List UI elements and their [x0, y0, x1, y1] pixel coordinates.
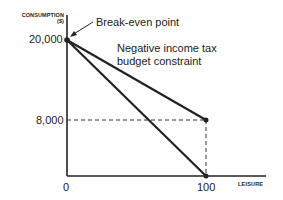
nit-annotation-line2: budget constraint [117, 55, 217, 68]
nit-endpoint-dot [204, 118, 209, 123]
y-axis-label: CONSUMPTION ($) [18, 12, 64, 24]
y-axis-label-line2: ($) [18, 18, 64, 24]
x-tick-0: 0 [63, 181, 69, 193]
nit-annotation-line1: Negative income tax [117, 42, 217, 55]
y-tick-8000: 8,000 [36, 114, 64, 126]
x-axis-label: LEISURE [238, 181, 263, 187]
break-even-annotation: Break-even point [96, 16, 179, 28]
original-endpoint-dot [204, 174, 209, 179]
chart-plot [0, 0, 283, 200]
chart: CONSUMPTION ($) 20,000 8,000 0 100 LEISU… [0, 0, 283, 200]
arrow-head-icon [70, 31, 77, 37]
break-even-dot [64, 37, 70, 43]
y-tick-20000: 20,000 [29, 33, 63, 45]
x-tick-100: 100 [197, 181, 215, 193]
nit-annotation: Negative income tax budget constraint [117, 42, 217, 68]
